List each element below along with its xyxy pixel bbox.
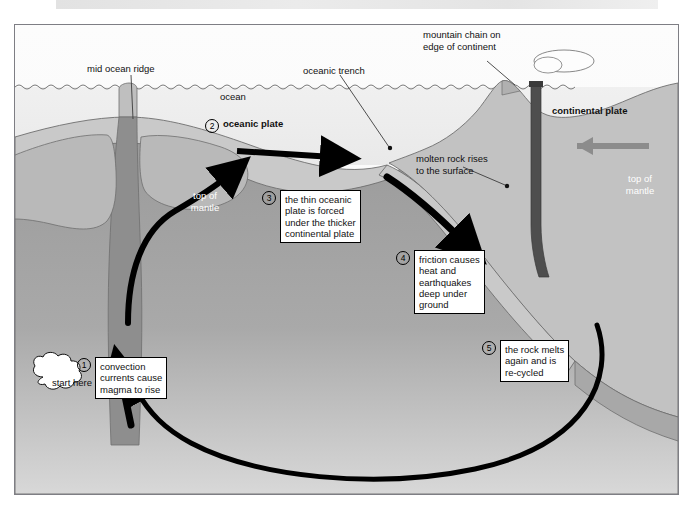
step-number-2: 2 (205, 119, 219, 133)
callout-step-2: 2 oceanic plate (205, 118, 283, 133)
volcano-vent (529, 81, 543, 87)
step-text-4: friction causes heat and earthquakes dee… (414, 250, 485, 314)
diagram-frame: mid ocean ridge ocean oceanic trench mou… (14, 24, 679, 495)
step-number-4: 4 (396, 251, 410, 265)
label-oceanic-trench: oceanic trench (303, 65, 365, 77)
volcano-plume-cloud-lobe (534, 57, 562, 73)
trench-point (388, 146, 392, 150)
step-text-1: convection currents cause magma to rise (95, 357, 167, 399)
step-text-5: the rock melts again and is re-cycled (500, 340, 569, 382)
step-number-5: 5 (482, 341, 496, 355)
label-mountain-chain: mountain chain on edge of continent (423, 29, 501, 52)
label-ocean: ocean (220, 91, 246, 103)
molten-rock-point (505, 184, 509, 188)
ridge-peak (119, 83, 137, 117)
callout-step-5: 5 the rock melts again and is re-cycled (482, 340, 569, 382)
plate-tectonics-illustration (15, 25, 678, 494)
mantle-lobe-left (15, 135, 116, 229)
page-header-strip (56, 0, 658, 9)
label-top-of-mantle-right: top of mantle (610, 173, 670, 196)
callout-step-4: 4 friction causes heat and earthquakes d… (396, 250, 485, 314)
step-number-1: 1 (77, 358, 91, 372)
label-top-of-mantle-left: top of mantle (175, 190, 235, 213)
label-mid-ocean-ridge: mid ocean ridge (87, 63, 155, 75)
callout-step-1: 1 convection currents cause magma to ris… (77, 357, 167, 399)
label-molten-rock: molten rock rises to the surface (416, 153, 488, 176)
step-text-3: the thin oceanic plate is forced under t… (280, 190, 361, 243)
page-root: mid ocean ridge ocean oceanic trench mou… (0, 0, 693, 524)
step-number-3: 3 (262, 191, 276, 205)
callout-step-3: 3 the thin oceanic plate is forced under… (262, 190, 361, 243)
step-text-2: oceanic plate (223, 118, 283, 130)
label-continental-plate: continental plate (552, 105, 627, 117)
